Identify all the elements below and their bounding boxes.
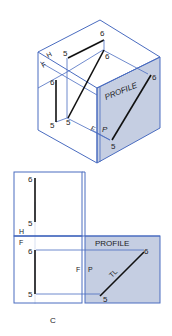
hinge-H: H <box>19 228 24 235</box>
iso-front-6: 6 <box>50 78 55 87</box>
profile-view-6: 6 <box>144 247 149 256</box>
iso-top-5: 5 <box>63 49 68 58</box>
front-view-frame <box>14 236 82 303</box>
top-view-5: 5 <box>28 219 33 228</box>
top-view-6: 6 <box>28 175 33 184</box>
hinge-P-vertical: P <box>88 266 93 273</box>
iso-back-6: 6 <box>105 52 110 61</box>
iso-top-6: 6 <box>100 29 105 38</box>
hinge-F: F <box>19 239 23 246</box>
hinge-F-vertical: F <box>76 266 80 273</box>
profile-view-5: 5 <box>103 295 108 304</box>
iso-front-5: 5 <box>50 121 55 130</box>
descriptive-geometry-figure: 5 6 6 6 5 5 6 5 PROFILE H F F P 6 5 H <box>0 0 172 336</box>
front-view-6: 6 <box>28 247 33 256</box>
iso-hinge-P: P <box>102 125 108 134</box>
top-projection-line <box>68 40 104 58</box>
iso-back-5: 5 <box>66 118 71 127</box>
iso-profile-6: 6 <box>152 73 157 82</box>
iso-profile-5: 5 <box>111 142 116 151</box>
orthographic-views: 6 5 H F 6 5 F P PROFILE 6 5 TL C <box>14 172 160 325</box>
iso-hinge-F: F <box>40 61 47 69</box>
figure-caption: C <box>50 316 56 325</box>
front-view-5: 5 <box>28 290 33 299</box>
top-view-frame <box>14 172 82 236</box>
profile-view-label: PROFILE <box>95 239 129 248</box>
isometric-glass-box: 5 6 6 6 5 5 6 5 PROFILE H F F P <box>38 20 160 163</box>
